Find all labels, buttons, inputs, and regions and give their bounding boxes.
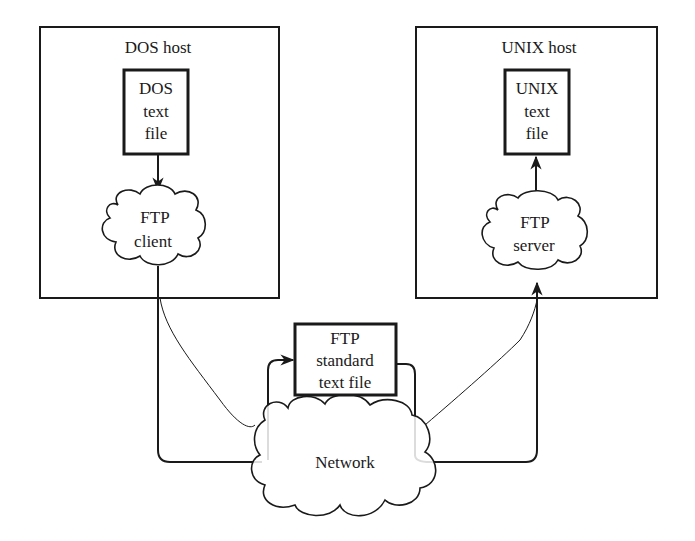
logical-connection-right — [425, 300, 537, 425]
svg-text:FTP: FTP — [140, 208, 169, 227]
svg-text:UNIX: UNIX — [516, 79, 559, 98]
ftp-client-cloud: FTP client — [102, 185, 205, 265]
dos-text-file: DOS text file — [124, 70, 188, 154]
ftp-standard-text-file: FTP standard text file — [295, 324, 396, 395]
svg-text:file: file — [526, 124, 549, 143]
svg-text:client: client — [134, 232, 172, 251]
svg-text:DOS: DOS — [139, 79, 173, 98]
svg-text:text: text — [143, 102, 169, 121]
dos-host-label: DOS host — [125, 38, 192, 57]
network-label: Network — [315, 453, 375, 472]
svg-text:text: text — [524, 102, 550, 121]
unix-host-label: UNIX host — [501, 38, 576, 57]
svg-text:file: file — [145, 124, 168, 143]
svg-text:standard: standard — [316, 351, 374, 370]
svg-text:FTP: FTP — [520, 213, 549, 232]
svg-text:server: server — [513, 236, 555, 255]
ftp-server-cloud: FTP server — [482, 191, 587, 270]
network-cloud: Network — [252, 394, 436, 515]
svg-text:text file: text file — [319, 373, 371, 392]
logical-connection-left — [160, 298, 255, 427]
svg-text:FTP: FTP — [330, 329, 359, 348]
unix-text-file: UNIX text file — [505, 70, 569, 154]
client-to-network-path — [158, 266, 262, 462]
ftp-text-file-diagram: DOS host UNIX host DOS text file UNIX te… — [0, 0, 695, 541]
